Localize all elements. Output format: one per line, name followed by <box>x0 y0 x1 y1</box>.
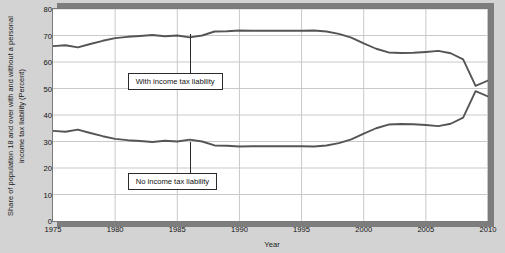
chart-figure: Share of population 18 and over with and… <box>0 0 505 253</box>
x-tick-label: 1980 <box>107 225 124 234</box>
x-tick-label: 1975 <box>45 225 62 234</box>
x-tick-label: 2000 <box>355 225 372 234</box>
y-tick-label: 30 <box>6 137 52 146</box>
annotation-leader-line <box>190 34 191 73</box>
annotation-label: No income tax liability <box>128 173 217 190</box>
plot-area <box>52 8 489 222</box>
series-line <box>53 30 488 85</box>
y-tick-label: 70 <box>6 31 52 40</box>
y-tick-label: 20 <box>6 164 52 173</box>
x-axis-label: Year <box>52 240 492 249</box>
y-tick-label: 40 <box>6 111 52 120</box>
y-tick-label: 80 <box>6 5 52 14</box>
x-tick-label: 1985 <box>169 225 186 234</box>
x-tick-label: 2005 <box>417 225 434 234</box>
annotation-leader-line <box>190 142 191 173</box>
y-tick-label: 10 <box>6 190 52 199</box>
y-axis-ticks: 01020304050607080 <box>0 0 52 253</box>
series-line <box>53 91 488 146</box>
y-tick-label: 50 <box>6 84 52 93</box>
chart-svg <box>53 9 488 221</box>
x-tick-label: 1990 <box>231 225 248 234</box>
annotation-label: With income tax liability <box>128 73 223 90</box>
x-tick-label: 1995 <box>293 225 310 234</box>
y-tick-label: 60 <box>6 58 52 67</box>
x-tick-label: 2010 <box>480 225 497 234</box>
